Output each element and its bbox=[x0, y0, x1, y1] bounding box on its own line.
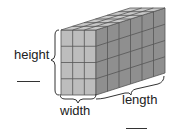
length-label: length bbox=[122, 92, 157, 107]
width-label: width bbox=[60, 103, 90, 118]
length-answer-blank[interactable] bbox=[126, 128, 147, 129]
height-brace-icon bbox=[51, 30, 59, 95]
height-answer-blank[interactable] bbox=[17, 81, 40, 82]
height-label: height bbox=[14, 47, 49, 62]
